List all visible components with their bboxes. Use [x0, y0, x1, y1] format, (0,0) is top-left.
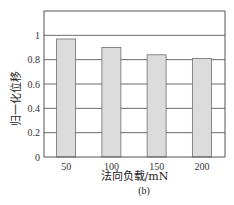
bar-100: [102, 48, 121, 158]
y-tick-label: 0: [35, 152, 40, 163]
bar-150: [147, 55, 166, 157]
y-tick-label: 0.8: [28, 54, 41, 65]
y-axis-label: 归一化位移: [9, 71, 23, 126]
y-tick-label: 0.6: [28, 79, 41, 90]
y-axis-ticks: 00.20.40.60.81: [28, 30, 41, 163]
bar-chart: 00.20.40.60.81 50100150200 法向负载/mN 归一化位移…: [0, 0, 234, 205]
y-tick-label: 0.2: [28, 127, 41, 138]
x-axis-label: 法向负载/mN: [101, 169, 169, 183]
bar-50: [57, 39, 76, 157]
bars: [57, 39, 212, 157]
y-tick-label: 0.4: [28, 103, 41, 114]
y-tick-label: 1: [35, 30, 40, 41]
x-tick-label: 200: [194, 161, 209, 172]
x-tick-label: 50: [61, 161, 71, 172]
figure-caption: (b): [138, 185, 150, 197]
bar-200: [192, 58, 211, 157]
